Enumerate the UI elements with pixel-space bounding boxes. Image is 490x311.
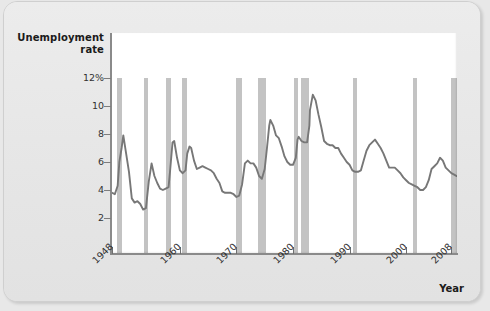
y-axis-tick-label: 8: [68, 128, 104, 139]
y-axis-tick-label: 6: [68, 156, 104, 167]
y-axis-tick-mark: [104, 190, 111, 191]
y-axis-tick-mark: [104, 78, 111, 79]
chart-page: Unemployment rate 12%108642 Year 1948196…: [0, 0, 490, 311]
plot-area: [112, 33, 457, 253]
y-axis-tick-label: 4: [68, 184, 104, 195]
y-axis-tick-mark: [104, 106, 111, 107]
y-axis-tick-label: 10: [68, 100, 104, 111]
unemployment-line-layer: [112, 33, 457, 253]
x-axis-title: Year: [439, 283, 464, 294]
y-axis-tick-mark: [104, 134, 111, 135]
unemployment-line: [112, 95, 456, 210]
y-axis-tick-mark: [104, 162, 111, 163]
y-axis-line: [110, 33, 112, 254]
unemployment-line-svg: [112, 33, 457, 253]
y-axis-tick-label: 2: [68, 212, 104, 223]
y-axis-tick-mark: [104, 218, 111, 219]
y-axis-tick-label: 12%: [68, 72, 104, 83]
